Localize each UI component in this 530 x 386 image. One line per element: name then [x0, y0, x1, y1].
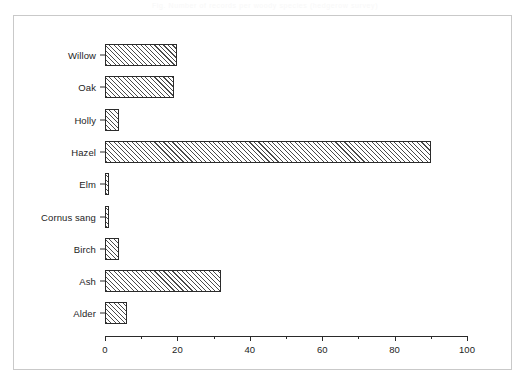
- category-tick: [100, 184, 105, 185]
- category-label-oak: Oak: [78, 82, 96, 93]
- category-label-alder: Alder: [73, 308, 96, 319]
- bar-alder: [105, 302, 127, 324]
- chart-plot-area: WillowOakHollyHazelElmCornus sangBirchAs…: [14, 16, 513, 371]
- bar-birch: [105, 238, 119, 260]
- x-tick-major: [467, 336, 468, 341]
- bar-cornus-sang: [105, 206, 109, 228]
- category-tick: [100, 55, 105, 56]
- bar-ash: [105, 270, 221, 292]
- x-tick-minor: [286, 336, 287, 339]
- category-label-elm: Elm: [79, 179, 96, 190]
- category-label-cornus-sang: Cornus sang: [41, 211, 96, 222]
- x-tick-label: 0: [102, 344, 107, 355]
- x-tick-label: 40: [245, 344, 256, 355]
- category-tick: [100, 281, 105, 282]
- x-tick-major: [395, 336, 396, 341]
- x-tick-label: 80: [389, 344, 400, 355]
- figure-frame: WillowOakHollyHazelElmCornus sangBirchAs…: [13, 15, 512, 370]
- x-tick-label: 60: [317, 344, 328, 355]
- bar-willow: [105, 44, 177, 66]
- bar-hazel: [105, 141, 431, 163]
- category-tick: [100, 216, 105, 217]
- x-tick-minor: [141, 336, 142, 339]
- category-label-holly: Holly: [74, 114, 96, 125]
- category-tick: [100, 248, 105, 249]
- x-tick-minor: [431, 336, 432, 339]
- category-label-birch: Birch: [74, 243, 96, 254]
- x-tick-minor: [214, 336, 215, 339]
- x-tick-major: [177, 336, 178, 341]
- x-tick-label: 20: [172, 344, 183, 355]
- x-tick-major: [105, 336, 106, 341]
- category-label-willow: Willow: [68, 50, 96, 61]
- category-tick: [100, 87, 105, 88]
- x-tick-major: [322, 336, 323, 341]
- bar-oak: [105, 76, 174, 98]
- x-tick-major: [250, 336, 251, 341]
- bar-holly: [105, 109, 119, 131]
- x-tick-label: 100: [459, 344, 475, 355]
- category-label-hazel: Hazel: [71, 146, 96, 157]
- figure-caption: Fig. Number of records per woody species…: [0, 0, 530, 12]
- category-label-ash: Ash: [79, 276, 96, 287]
- category-tick: [100, 151, 105, 152]
- bar-elm: [105, 173, 109, 195]
- category-tick: [100, 119, 105, 120]
- category-tick: [100, 313, 105, 314]
- x-tick-minor: [358, 336, 359, 339]
